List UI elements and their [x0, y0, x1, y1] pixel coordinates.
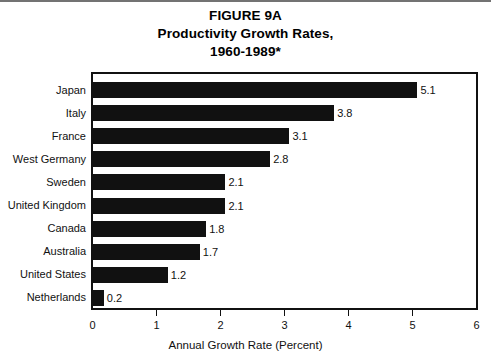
bar: [91, 221, 206, 237]
x-axis-tick-label: 3: [270, 320, 300, 331]
bar-row: 1.8: [91, 221, 478, 237]
bar: [91, 105, 334, 121]
category-label: West Germany: [0, 154, 86, 165]
bar-value-label: 3.8: [334, 108, 352, 119]
bar-value-label: 2.1: [225, 177, 243, 188]
category-label: France: [0, 131, 86, 142]
category-label: Japan: [0, 85, 86, 96]
category-label: United States: [0, 269, 86, 280]
bar: [91, 128, 289, 144]
x-axis-tick-label: 1: [142, 320, 172, 331]
x-axis-tick-label: 0: [78, 320, 108, 331]
x-axis-tick-label: 2: [206, 320, 236, 331]
category-label: Sweden: [0, 177, 86, 188]
bar-value-label: 2.1: [225, 200, 243, 211]
x-axis-tick-label: 4: [334, 320, 364, 331]
category-label: Netherlands: [0, 292, 86, 303]
bar: [91, 198, 225, 214]
bar-row: 2.8: [91, 151, 478, 167]
x-axis-tick: [412, 310, 414, 316]
bar-value-label: 0.2: [104, 292, 122, 303]
category-label: United Kingdom: [0, 200, 86, 211]
bar-chart: 5.13.83.12.82.12.11.81.71.20.2 JapanItal…: [0, 0, 491, 363]
bar: [91, 174, 225, 190]
x-axis-tick: [156, 310, 158, 316]
bar: [91, 82, 417, 98]
bar-row: 1.7: [91, 244, 478, 260]
bar: [91, 244, 200, 260]
bar-value-label: 3.1: [289, 131, 307, 142]
bar-value-label: 1.2: [168, 269, 186, 280]
bar-value-label: 1.7: [200, 246, 218, 257]
bar-row: 5.1: [91, 82, 478, 98]
x-axis-tick: [348, 310, 350, 316]
bar-row: 3.8: [91, 105, 478, 121]
bar-value-label: 5.1: [417, 85, 435, 96]
bar: [91, 151, 270, 167]
bar-row: 1.2: [91, 267, 478, 283]
category-label: Canada: [0, 223, 86, 234]
bar-value-label: 2.8: [270, 154, 288, 165]
x-axis-tick-label: 5: [398, 320, 428, 331]
bar: [91, 290, 104, 306]
x-axis-tick: [284, 310, 286, 316]
bar: [91, 267, 168, 283]
bar-row: 2.1: [91, 198, 478, 214]
bar-row: 3.1: [91, 128, 478, 144]
x-axis-tick-label: 6: [462, 320, 491, 331]
plot-inner: 5.13.83.12.82.12.11.81.71.20.2: [91, 72, 478, 310]
bar-row: 2.1: [91, 174, 478, 190]
bar-value-label: 1.8: [206, 223, 224, 234]
bar-row: 0.2: [91, 290, 478, 306]
category-label: Australia: [0, 246, 86, 257]
x-axis-tick: [220, 310, 222, 316]
category-label: Italy: [0, 108, 86, 119]
x-axis-title: Annual Growth Rate (Percent): [0, 339, 491, 351]
